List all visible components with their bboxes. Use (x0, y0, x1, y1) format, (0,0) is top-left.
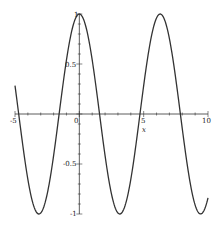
y-tick-label-neg1: -1 (70, 210, 77, 218)
x-tick-label-10: 10 (202, 117, 211, 125)
x-tick-label-0: 0 (74, 117, 78, 125)
x-tick-label-neg5: -5 (10, 117, 17, 125)
axes (15, 14, 208, 214)
x-tick-label-5: 5 (141, 117, 145, 125)
cosine-plot: -5 0 5 10 x 1 0.5 -0.5 -1 (0, 0, 221, 227)
y-tick-label-0.5: 0.5 (65, 61, 76, 69)
x-axis-label: x (142, 126, 146, 134)
y-tick-label-1: 1 (74, 11, 78, 19)
y-tick-label-neg0.5: -0.5 (63, 160, 77, 168)
